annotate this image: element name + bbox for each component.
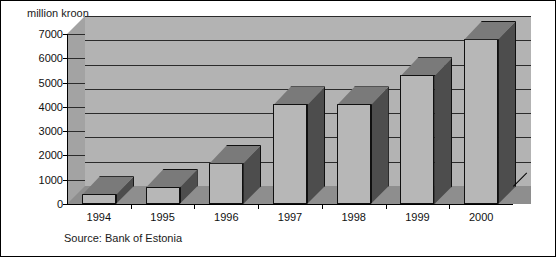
bar-front-face [337, 104, 371, 204]
x-tick-label-2000: 2000 [469, 211, 493, 223]
bar-side-face [307, 86, 325, 204]
gridline-depth-edge [67, 137, 85, 156]
y-tick-label: 3000 [39, 125, 63, 137]
y-tick-mark [63, 107, 68, 108]
bar-1998 [337, 86, 371, 204]
y-tick-label: 5000 [39, 77, 63, 89]
bar-front-face [400, 75, 434, 204]
x-tick-mark [322, 204, 323, 209]
y-tick-label: 0 [57, 198, 63, 210]
x-axis-line [67, 204, 513, 205]
y-tick-mark [63, 131, 68, 132]
y-tick-label: 2000 [39, 149, 63, 161]
gridline-depth-edge [67, 40, 85, 59]
x-tick-mark [194, 204, 195, 209]
x-tick-mark [258, 204, 259, 209]
bar-1995 [146, 169, 180, 204]
bar-side-face [371, 86, 389, 204]
x-tick-label-1994: 1994 [87, 211, 111, 223]
y-axis-line [67, 34, 68, 204]
gridline-depth-edge [67, 65, 85, 84]
bar-front-face [464, 39, 498, 204]
bar-1996 [209, 145, 243, 204]
y-tick-label: 6000 [39, 52, 63, 64]
bar-1994 [82, 176, 116, 204]
y-tick-mark [63, 34, 68, 35]
y-tick-label: 4000 [39, 101, 63, 113]
x-tick-label-1998: 1998 [341, 211, 365, 223]
source-note: Source: Bank of Estonia [64, 232, 182, 244]
x-tick-label-1995: 1995 [150, 211, 174, 223]
x-tick-mark [386, 204, 387, 209]
y-tick-mark [63, 180, 68, 181]
y-tick-label: 7000 [39, 28, 63, 40]
x-tick-mark [131, 204, 132, 209]
bar-front-face [82, 194, 116, 204]
y-tick-mark [63, 58, 68, 59]
gridline-depth-edge [67, 113, 85, 132]
chart-figure: million kroon 01000200030004000500060007… [0, 0, 556, 257]
x-tick-label-1996: 1996 [214, 211, 238, 223]
y-tick-mark [63, 83, 68, 84]
gridline [85, 16, 531, 17]
bar-1999 [400, 57, 434, 204]
x-tick-label-1997: 1997 [278, 211, 302, 223]
gridline-depth-edge [67, 16, 85, 35]
x-tick-mark [449, 204, 450, 209]
plot-area: 01000200030004000500060007000 1994199519… [1, 1, 556, 257]
bar-side-face [498, 21, 516, 204]
bar-1997 [273, 86, 307, 204]
bar-side-face [434, 57, 452, 204]
y-tick-label: 1000 [39, 174, 63, 186]
bar-front-face [209, 163, 243, 204]
bar-2000 [464, 21, 498, 204]
gridline-depth-edge [67, 89, 85, 108]
bar-front-face [273, 104, 307, 204]
y-tick-mark [63, 204, 68, 205]
bar-front-face [146, 187, 180, 204]
x-tick-label-1999: 1999 [405, 211, 429, 223]
y-tick-mark [63, 155, 68, 156]
